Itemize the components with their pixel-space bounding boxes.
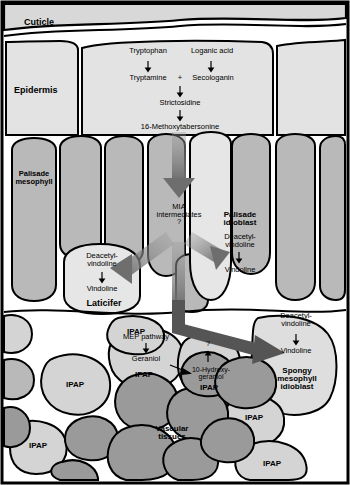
vascular-cell-8 (201, 418, 254, 462)
palisade-cell-2 (60, 136, 101, 259)
diagram-canvas (0, 0, 350, 485)
palisade-cell-7 (276, 134, 315, 300)
palisade-cell-8 (320, 136, 345, 300)
epidermis-cell-left (6, 41, 78, 135)
vascular-cell-4 (215, 357, 276, 408)
epidermis-cell-right (277, 40, 345, 135)
palisade-cell-6 (232, 134, 270, 274)
leaf-cross-section-diagram: Cuticle Epidermis Tryptophan Loganic aci… (0, 0, 350, 485)
ipap-cell-topright (107, 316, 164, 354)
epidermis-cell-center (82, 41, 273, 135)
palisade-idioblast-cell (190, 132, 231, 300)
palisade-cell-1 (12, 138, 56, 301)
spongy-edge-cell-1 (4, 315, 32, 353)
ipap-cell-midleft (41, 354, 110, 414)
